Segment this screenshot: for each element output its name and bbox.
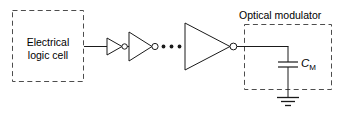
- buffer-chain-ellipsis: [162, 45, 182, 49]
- inverter-2: [129, 32, 158, 61]
- capacitor-cm-subscript: M: [309, 63, 316, 72]
- capacitor-cm-label: CM: [301, 56, 316, 73]
- inverter-3: [185, 23, 237, 70]
- inverter-3-bubble: [230, 43, 237, 50]
- capacitor-cm: [278, 62, 298, 97]
- logic-cell-label-line2: logic cell: [12, 49, 84, 62]
- inverter-1-bubble: [122, 44, 127, 49]
- ground-symbol-icon: [277, 98, 299, 106]
- figure-canvas: Electrical logic cell Optical modulator …: [0, 0, 342, 119]
- logic-cell-label-line1: Electrical: [12, 36, 84, 49]
- inverter-1: [107, 38, 127, 55]
- inverter-2-bubble: [152, 43, 158, 49]
- electrical-logic-cell-label: Electrical logic cell: [12, 36, 84, 62]
- optical-modulator-label: Optical modulator: [239, 9, 321, 22]
